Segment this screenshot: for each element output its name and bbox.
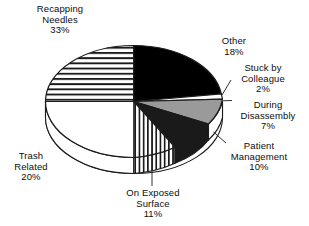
label-trash-related: Trash Related 20% [3,151,59,183]
label-recapping-needles-percent: 33% [18,25,102,36]
label-stuck-by-colleague-percent: 2% [227,84,299,95]
label-trash-related-line1: Trash [3,151,59,162]
slice-trash-related[interactable] [45,102,133,158]
label-patient-management-percent: 10% [215,162,303,173]
label-during-disassembly-line1: During [229,100,307,111]
label-stuck-by-colleague-line1: Stuck by [227,63,299,74]
label-trash-related-percent: 20% [3,172,59,183]
label-patient-management: Patient Management 10% [215,141,303,173]
label-other-line1: Other [205,36,263,47]
label-on-exposed-surface-percent: 11% [107,209,199,220]
label-recapping-needles: Recapping Needles 33% [18,4,102,36]
label-on-exposed-surface: On Exposed Surface 11% [107,188,199,220]
pie-chart: Recapping Needles 33% Other 18% Stuck by… [0,0,309,226]
label-other-percent: 18% [205,47,263,58]
slice-recapping-needles[interactable] [45,46,133,102]
label-on-exposed-surface-line1: On Exposed [107,188,199,199]
label-other: Other 18% [205,36,263,57]
label-recapping-needles-line1: Recapping [18,4,102,15]
label-during-disassembly: During Disassembly 7% [229,100,307,132]
label-during-disassembly-percent: 7% [229,121,307,132]
label-patient-management-line1: Patient [215,141,303,152]
label-stuck-by-colleague: Stuck by Colleague 2% [227,63,299,95]
